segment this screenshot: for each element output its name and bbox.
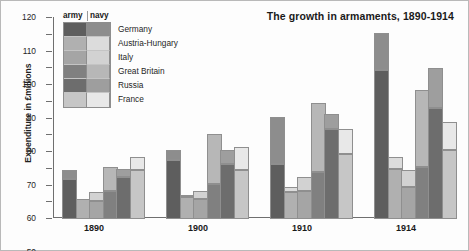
legend-swatch-army [64, 65, 87, 79]
y-axis-tick: 30 [46, 168, 52, 169]
stacked-bar[interactable] [375, 32, 388, 218]
stacked-bar[interactable] [416, 89, 429, 218]
y-axis-tick: 20 [46, 185, 52, 186]
legend-row[interactable]: France [64, 93, 110, 107]
y-axis-tick: 80 [46, 84, 52, 85]
legend-label: France [118, 94, 144, 104]
stacked-bar[interactable] [131, 156, 144, 218]
legend-row[interactable]: Germany [64, 23, 110, 37]
y-axis-tick-label: 90 [27, 113, 36, 123]
legend-swatch-navy [87, 37, 110, 51]
stacked-bar[interactable] [221, 149, 234, 218]
stacked-bar[interactable] [389, 156, 402, 218]
y-axis-tick: 60 [46, 118, 52, 119]
bar-segment-navy [324, 114, 339, 129]
legend-label: Germany [118, 24, 152, 34]
stacked-bar[interactable] [339, 128, 352, 218]
plot-area: 0102030405060708090100110120 18901900191… [53, 17, 457, 218]
stacked-bar[interactable] [90, 191, 103, 218]
legend-swatch-army [64, 51, 87, 65]
y-axis-tick: 110 [46, 34, 52, 35]
legend-swatch-army [64, 79, 87, 93]
legend-header-navy: navy [90, 11, 109, 20]
stacked-bar[interactable] [443, 121, 456, 218]
y-axis-tick: 10 [46, 201, 52, 202]
legend-rows: GermanyAustria-HungaryItalyGreat Britain… [63, 22, 111, 108]
y-axis-tick-label: 110 [23, 46, 36, 56]
bar-segment-army [338, 154, 353, 219]
bar-segment-navy [270, 117, 285, 164]
x-axis-group-label: 1890 [84, 223, 104, 233]
stacked-bar[interactable] [208, 133, 221, 218]
bar-segment-navy [428, 68, 443, 108]
bar-segment-navy [166, 150, 181, 160]
stacked-bar[interactable] [429, 67, 442, 218]
stacked-bar[interactable] [104, 166, 117, 218]
legend-row[interactable]: Austria-Hungary [64, 37, 110, 51]
y-axis-tick: 90 [46, 67, 52, 68]
y-axis-tick: 0 [46, 218, 52, 219]
bar-segment-navy [338, 129, 353, 154]
stacked-bar[interactable] [325, 112, 338, 218]
legend-swatch-navy [87, 93, 110, 107]
y-axis-tick-label: 80 [27, 146, 36, 156]
bar-segment-army [234, 170, 249, 219]
stacked-bar[interactable] [402, 169, 415, 218]
stacked-bar[interactable] [285, 186, 298, 218]
legend-swatch-navy [87, 65, 110, 79]
legend-swatch-army [64, 23, 87, 37]
y-axis-tick: 120 [46, 17, 52, 18]
y-axis-tick: 40 [46, 151, 52, 152]
x-axis-group-label: 1900 [188, 223, 208, 233]
stacked-bar[interactable] [298, 176, 311, 218]
y-axis-tick-label: 100 [22, 79, 36, 89]
stacked-bar[interactable] [77, 198, 90, 218]
y-axis-tick-label: 120 [22, 12, 36, 22]
legend-header-divider [87, 11, 88, 21]
legend-swatch-army [64, 93, 87, 107]
stacked-bar[interactable] [117, 168, 130, 218]
y-axis-tick: 50 [46, 134, 52, 135]
bar-segment-navy [442, 122, 457, 150]
y-axis-tick-label: 70 [27, 180, 36, 190]
legend-row[interactable]: Italy [64, 51, 110, 65]
legend-label: Great Britain [118, 66, 165, 76]
legend-swatch-navy [87, 51, 110, 65]
stacked-bar[interactable] [63, 169, 76, 218]
legend-row[interactable]: Russia [64, 79, 110, 93]
stacked-bar[interactable] [235, 146, 248, 218]
bar-segment-navy [62, 170, 77, 178]
legend: army navy GermanyAustria-HungaryItalyGre… [63, 11, 111, 108]
stacked-bar[interactable] [181, 195, 194, 218]
x-axis-group-label: 1914 [396, 223, 416, 233]
legend-label: Austria-Hungary [118, 38, 178, 48]
stacked-bar[interactable] [194, 190, 207, 218]
bar-segment-navy [130, 157, 145, 170]
legend-label: Russia [118, 80, 143, 90]
y-axis-tick: 100 [46, 51, 52, 52]
y-axis-tick: 70 [46, 101, 52, 102]
y-axis-tick-label: 60 [27, 213, 36, 223]
y-axis-tick-label: 50 [27, 247, 36, 251]
legend-label: Italy [118, 52, 133, 62]
bar-segment-army [442, 150, 457, 219]
bar-segment-navy [374, 33, 389, 70]
x-axis-group-label: 1910 [292, 223, 312, 233]
stacked-bar[interactable] [312, 102, 325, 218]
y-axis-line [53, 17, 54, 218]
stacked-bar[interactable] [271, 116, 284, 218]
legend-swatch-navy [87, 23, 110, 37]
legend-headers: army navy [63, 11, 111, 22]
legend-header-army: army [63, 11, 83, 20]
bar-group: 1900 [167, 17, 253, 218]
bar-segment-navy [388, 157, 403, 169]
bar-segment-army [130, 170, 145, 219]
bar-group: 1910 [271, 17, 357, 218]
bar-group: 1914 [375, 17, 461, 218]
legend-swatch-navy [87, 79, 110, 93]
chart-container: The growth in armaments, 1890-1914 Expen… [0, 0, 469, 251]
legend-swatch-army [64, 37, 87, 51]
legend-row[interactable]: Great Britain [64, 65, 110, 79]
bar-segment-navy [234, 147, 249, 170]
stacked-bar[interactable] [167, 149, 180, 218]
